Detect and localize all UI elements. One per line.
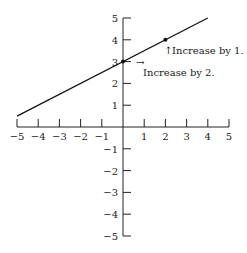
- x-tick-label: −2: [73, 131, 88, 142]
- coordinate-plane: −5 −4 −3 −2 −1 1 2 3 4 5 5 4 3 2 1 −1 −2…: [0, 0, 247, 253]
- x-tick-label: −1: [94, 131, 109, 142]
- x-tick-label: −4: [31, 131, 46, 142]
- x-tick-label: 1: [141, 131, 147, 142]
- y-tick-label: 2: [112, 78, 118, 89]
- x-tick-labels: −5 −4 −3 −2 −1 1 2 3 4 5: [10, 131, 233, 142]
- x-tick-label: 2: [162, 131, 168, 142]
- y-tick-label: 4: [112, 35, 118, 46]
- x-tick-label: −5: [10, 131, 25, 142]
- point-y-intercept: [121, 60, 125, 64]
- y-tick-label: −2: [103, 166, 118, 177]
- y-tick-label: 5: [112, 13, 118, 24]
- x-tick-label: 4: [205, 131, 211, 142]
- x-tick-label: 3: [183, 131, 189, 142]
- x-tick-label: −3: [52, 131, 67, 142]
- x-tick-label: 5: [226, 131, 232, 142]
- rise-annotation: Increase by 1.: [172, 45, 244, 56]
- y-tick-label: 1: [112, 100, 118, 111]
- point-2-4: [163, 38, 167, 42]
- y-tick-label: −1: [103, 144, 118, 155]
- y-tick-label: −3: [103, 187, 118, 198]
- y-tick-label: −4: [103, 209, 118, 220]
- y-tick-label: −5: [103, 231, 118, 242]
- run-annotation: Increase by 2.: [143, 67, 215, 78]
